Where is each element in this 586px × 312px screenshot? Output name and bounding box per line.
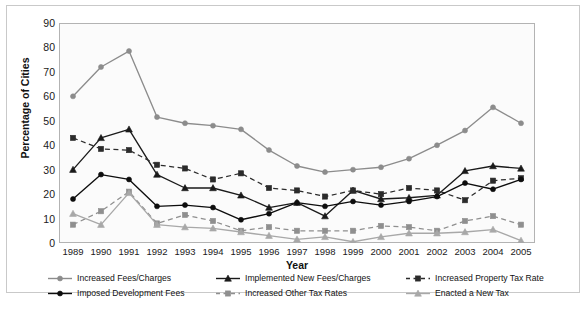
data-point-marker	[379, 203, 384, 208]
data-point-marker	[351, 199, 356, 204]
data-point-marker	[127, 49, 132, 54]
data-point-marker	[70, 210, 77, 216]
data-point-marker	[490, 214, 495, 219]
x-tick-label: 2002	[426, 246, 447, 257]
data-point-marker	[154, 162, 159, 167]
chart-figure: Percentage of Cities 9080706050403020100…	[0, 0, 586, 312]
chart-series-svg	[59, 23, 535, 243]
data-point-marker	[490, 178, 495, 183]
x-tick-label: 1991	[118, 246, 139, 257]
x-tick-label: 1999	[342, 246, 363, 257]
data-point-marker	[211, 205, 216, 210]
y-tick-label: 20	[25, 188, 55, 200]
data-point-marker	[182, 212, 187, 217]
legend-item[interactable]: Increased Fees/Charges	[47, 272, 215, 285]
x-tick-label: 1989	[62, 246, 83, 257]
x-tick-label: 1997	[286, 246, 307, 257]
legend-label: Enacted a New Tax	[435, 288, 509, 299]
legend-label: Increased Property Tax Rate	[435, 273, 544, 284]
x-tick-label: 1992	[146, 246, 167, 257]
legend-label: Increased Fees/Charges	[77, 273, 171, 284]
legend-key-square-icon	[405, 273, 431, 284]
x-tick-label: 1998	[314, 246, 335, 257]
data-point-marker	[71, 94, 76, 99]
y-axis-label-host: Percentage of Cities	[7, 6, 8, 7]
y-tick-label: 40	[25, 139, 55, 151]
legend-label: Implemented New Fees/Charges	[245, 273, 371, 284]
data-point-marker	[378, 223, 383, 228]
legend-item[interactable]: Enacted a New Tax	[405, 287, 563, 300]
data-point-marker	[70, 222, 75, 227]
x-tick-label: 2003	[454, 246, 475, 257]
x-tick-label: 1995	[230, 246, 251, 257]
y-tick-label: 60	[25, 90, 55, 102]
data-point-marker	[126, 126, 133, 132]
legend-key-square-icon	[215, 288, 241, 299]
y-tick-label: 30	[25, 164, 55, 176]
legend-item[interactable]: Increased Property Tax Rate	[405, 272, 563, 285]
data-point-marker	[99, 65, 104, 70]
data-point-marker	[350, 188, 355, 193]
data-point-marker	[127, 177, 132, 182]
data-point-marker	[350, 228, 355, 233]
series-line	[73, 51, 521, 172]
data-point-marker	[155, 204, 160, 209]
data-point-marker	[463, 181, 468, 186]
data-point-marker	[407, 156, 412, 161]
series-5	[70, 189, 523, 233]
data-point-marker	[210, 218, 215, 223]
y-tick-label: 90	[25, 17, 55, 29]
data-point-marker	[519, 177, 524, 182]
data-point-marker	[99, 172, 104, 177]
data-point-marker	[267, 211, 272, 216]
data-point-marker	[378, 192, 383, 197]
data-point-marker	[211, 123, 216, 128]
legend-key-circle-icon	[47, 288, 73, 299]
y-tick-label: 50	[25, 115, 55, 127]
y-axis-ticks: 9080706050403020100	[21, 23, 55, 243]
data-point-marker	[294, 188, 299, 193]
data-point-marker	[71, 197, 76, 202]
series-line	[73, 192, 521, 231]
data-point-marker	[323, 170, 328, 175]
data-point-marker	[407, 199, 412, 204]
y-tick-label: 70	[25, 66, 55, 78]
y-tick-label: 0	[25, 237, 55, 249]
legend-item[interactable]: Imposed Development Fees	[47, 287, 215, 300]
data-point-marker	[58, 276, 63, 281]
x-tick-label: 1990	[90, 246, 111, 257]
data-point-marker	[154, 171, 161, 177]
legend-label: Imposed Development Fees	[77, 288, 184, 299]
data-point-marker	[415, 276, 420, 281]
data-point-marker	[463, 128, 468, 133]
x-tick-label: 1994	[202, 246, 223, 257]
data-point-marker	[70, 135, 75, 140]
legend-label: Increased Other Tax Rates	[245, 288, 347, 299]
x-tick-label: 2004	[482, 246, 503, 257]
data-point-marker	[126, 148, 131, 153]
data-point-marker	[98, 209, 103, 214]
data-point-marker	[519, 121, 524, 126]
data-point-marker	[406, 185, 411, 190]
data-point-marker	[323, 204, 328, 209]
data-point-marker	[238, 171, 243, 176]
x-tick-label: 1996	[258, 246, 279, 257]
data-point-marker	[58, 291, 63, 296]
data-point-marker	[351, 167, 356, 172]
data-point-marker	[434, 188, 439, 193]
data-point-marker	[210, 177, 215, 182]
data-point-marker	[295, 200, 300, 205]
x-tick-label: 2005	[510, 246, 531, 257]
data-point-marker	[491, 187, 496, 192]
data-point-marker	[225, 291, 230, 296]
data-point-marker	[435, 143, 440, 148]
chart-legend: Increased Fees/ChargesImplemented New Fe…	[47, 272, 563, 300]
data-point-marker	[462, 198, 467, 203]
legend-item[interactable]: Increased Other Tax Rates	[215, 287, 405, 300]
legend-item[interactable]: Implemented New Fees/Charges	[215, 272, 405, 285]
data-point-marker	[295, 164, 300, 169]
data-point-marker	[183, 121, 188, 126]
x-tick-label: 2001	[398, 246, 419, 257]
chart-card: Percentage of Cities 9080706050403020100…	[6, 5, 580, 293]
data-point-marker	[435, 194, 440, 199]
